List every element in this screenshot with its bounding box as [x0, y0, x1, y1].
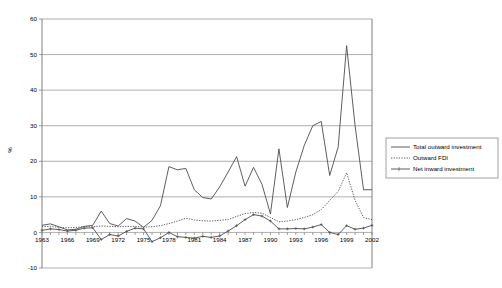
axes-group: [42, 19, 372, 268]
y-tick-label: 10: [30, 193, 37, 200]
x-tick-label: 1987: [238, 236, 252, 243]
y-tick-label: 40: [30, 86, 37, 93]
x-tick-label: 1966: [61, 236, 75, 243]
x-tick-label: 1963: [35, 236, 49, 243]
series-line-outward-fdi: [42, 173, 372, 228]
grid-group: [42, 19, 372, 268]
y-tick-label: 20: [30, 157, 37, 164]
ytick-labels: -100102030405060: [28, 15, 42, 271]
series-line-total-outward-investment: [42, 46, 372, 230]
legend: Total outward investmentOutward FDINet i…: [386, 138, 498, 178]
y-tick-label: -10: [28, 264, 38, 271]
x-tick-label: 1978: [162, 236, 176, 243]
x-tick-label: 1969: [86, 236, 100, 243]
series-group: [41, 46, 374, 243]
x-tick-label: 1999: [340, 236, 354, 243]
x-tick-label: 1996: [314, 236, 328, 243]
legend-label: Total outward investment: [413, 143, 482, 150]
x-tick-label: 2002: [365, 236, 379, 243]
chart-container: -100102030405060 19631966196919721975197…: [0, 0, 502, 288]
legend-label: Net inward investment: [413, 165, 474, 172]
line-chart: -100102030405060 19631966196919721975197…: [0, 0, 502, 288]
y-tick-label: 30: [30, 122, 37, 129]
y-tick-label: 60: [30, 15, 37, 22]
y-axis-title: %: [6, 147, 13, 153]
x-tick-label: 1972: [111, 236, 125, 243]
legend-label: Outward FDI: [413, 154, 448, 161]
x-tick-label: 1993: [289, 236, 303, 243]
x-tick-label: 1984: [213, 236, 227, 243]
x-tick-label: 1990: [264, 236, 278, 243]
xtick-labels: 1963196619691972197519781981198419871990…: [35, 236, 379, 243]
y-tick-label: 50: [30, 51, 37, 58]
y-tick-label: 0: [34, 229, 38, 236]
